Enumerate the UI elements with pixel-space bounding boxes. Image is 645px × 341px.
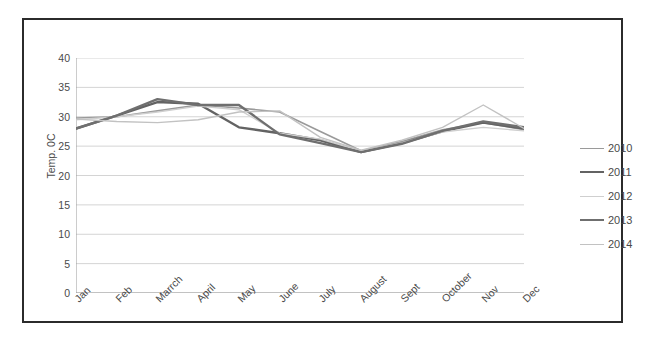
y-tick-label: 15 [44,200,70,211]
legend-label: 2010 [608,143,632,154]
y-tick-label: 40 [44,53,70,64]
legend-label: 2013 [608,215,632,226]
legend-item-2014: 2014 [580,232,642,256]
legend-label: 2014 [608,239,632,250]
y-tick-label: 20 [44,171,70,182]
legend-label: 2012 [608,191,632,202]
y-axis-tick-labels: 4035302520151050 [42,58,70,293]
legend-line-swatch [580,171,604,173]
legend-item-2013: 2013 [580,208,642,232]
legend-line-swatch [580,244,604,245]
plot-svg [76,58,524,293]
y-tick-label: 30 [44,112,70,123]
legend-line-swatch [580,219,604,221]
y-tick-label: 35 [44,82,70,93]
y-tick-label: 10 [44,229,70,240]
x-axis-tick-labels: JanFebMarrchAprilMayJuneJulyAugustSeptOc… [76,296,524,341]
y-tick-label: 5 [44,259,70,270]
temperature-line-chart: Temp. 0C 4035302520151050 JanFebMarrchAp… [0,0,645,341]
y-tick-label: 0 [44,288,70,299]
legend-label: 2011 [608,167,632,178]
legend-line-swatch [580,148,604,149]
chart-legend: 20102011201220132014 [580,136,642,256]
legend-line-swatch [580,196,604,197]
legend-item-2012: 2012 [580,184,642,208]
legend-item-2011: 2011 [580,160,642,184]
plot-area [76,58,524,293]
chart-frame: Temp. 0C 4035302520151050 JanFebMarrchAp… [22,18,623,323]
y-tick-label: 25 [44,141,70,152]
legend-item-2010: 2010 [580,136,642,160]
